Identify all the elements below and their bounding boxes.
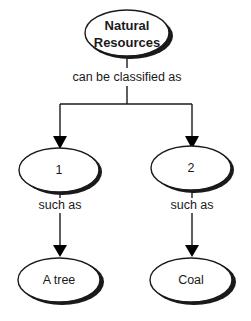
- example-node-1-label: A tree: [43, 273, 76, 287]
- right-link-label: such as: [170, 198, 213, 212]
- example-node-2: Coal: [150, 258, 236, 305]
- category-node-1-label: 1: [56, 163, 63, 177]
- category-node-2-label: 2: [188, 161, 195, 175]
- root-link-label: can be classified as: [72, 70, 181, 84]
- arrow-head-right-lower: [185, 245, 199, 257]
- root-node: Natural Resources: [85, 10, 173, 59]
- category-node-1: 1: [19, 148, 102, 195]
- arrow-head-left-lower: [53, 245, 67, 257]
- concept-map: Natural Resources can be classified as 1…: [0, 0, 251, 321]
- root-node-label-line1: Natural: [105, 18, 150, 33]
- left-link-label: such as: [38, 198, 81, 212]
- root-node-label-line2: Resources: [94, 35, 160, 50]
- example-node-2-label: Coal: [178, 273, 204, 287]
- example-node-1: A tree: [18, 258, 104, 305]
- category-node-2: 2: [151, 146, 234, 193]
- arrow-head-left: [53, 136, 67, 149]
